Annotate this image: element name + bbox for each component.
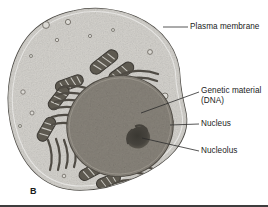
panel-letter: B: [30, 186, 37, 196]
cell-diagram-figure: Plasma membrane Genetic material (DNA) N…: [0, 0, 268, 207]
figure-bottom-border: [0, 205, 268, 207]
label-nucleolus: Nucleolus: [201, 146, 237, 156]
label-nucleus: Nucleus: [201, 119, 231, 129]
label-plasma-membrane: Plasma membrane: [190, 22, 259, 32]
label-genetic-material: Genetic material (DNA): [201, 86, 261, 105]
